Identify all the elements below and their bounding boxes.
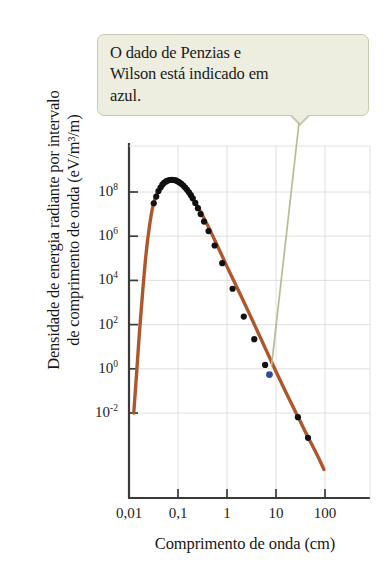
x-tick-label: 0,1: [169, 505, 188, 522]
y-tick-label: 10-2: [62, 403, 118, 421]
blackbody-curve: [134, 180, 324, 470]
x-axis-title: Comprimento de onda (cm): [110, 534, 380, 554]
x-tick-label: 10: [269, 505, 284, 522]
callout-box: O dado de Penzias e Wilson está indicado…: [97, 34, 369, 116]
figure-blackbody-spectrum: O dado de Penzias e Wilson está indicado…: [0, 0, 389, 575]
y-tick-label: 106: [62, 226, 118, 244]
measured-data-points: [151, 177, 311, 441]
x-tick-label: 0,01: [116, 505, 142, 522]
gridlines: [129, 146, 370, 498]
y-tick-label: 100: [62, 359, 118, 377]
y-tick-label: 108: [62, 182, 118, 200]
x-tick-label: 100: [314, 505, 337, 522]
callout-leader-line: [271, 123, 299, 367]
callout-tail-fill: [291, 114, 309, 123]
penzias-wilson-point: [266, 371, 273, 378]
y-tick-label: 104: [62, 270, 118, 288]
plot-frame: [128, 143, 370, 498]
y-tick-label: 102: [62, 315, 118, 333]
tick-marks: [129, 192, 325, 498]
callout-text: O dado de Penzias e Wilson está indicado…: [110, 42, 358, 106]
x-tick-label: 1: [223, 505, 231, 522]
